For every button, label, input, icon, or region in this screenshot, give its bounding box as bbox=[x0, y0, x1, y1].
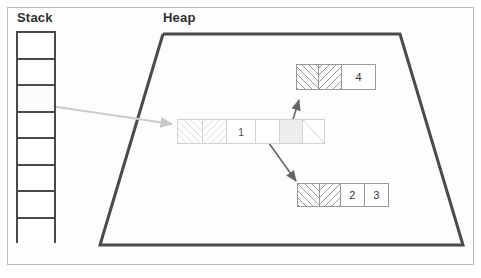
stack-cell-5[interactable] bbox=[18, 166, 54, 193]
stack-cell-1[interactable] bbox=[18, 60, 54, 87]
heap-cell-header-b bbox=[319, 65, 341, 89]
heap-cell-mid-header-b bbox=[203, 120, 228, 143]
heap-title: Heap bbox=[163, 10, 196, 25]
heap-block-node-1[interactable]: 1 bbox=[177, 119, 325, 144]
stack-cell-7[interactable] bbox=[18, 219, 54, 246]
heap-cell-mid-ptr-a bbox=[256, 120, 280, 143]
stack-cell-2[interactable] bbox=[18, 86, 54, 113]
heap-block-node-4[interactable]: 4 bbox=[296, 64, 376, 90]
stack-cell-4[interactable] bbox=[18, 139, 54, 166]
heap-block-node-2-3[interactable]: 2 3 bbox=[297, 183, 389, 207]
heap-cell-mid-ptr-b bbox=[280, 120, 304, 143]
heap-cell-bot-header-b bbox=[320, 184, 342, 206]
stack-cell-0[interactable] bbox=[18, 33, 54, 60]
stack-column[interactable] bbox=[16, 31, 56, 243]
heap-cell-mid-header-a bbox=[178, 120, 203, 143]
heap-cell-mid-null bbox=[303, 120, 324, 143]
stack-cell-3[interactable] bbox=[18, 113, 54, 140]
heap-cell-value-3: 3 bbox=[365, 184, 388, 206]
stack-cell-6[interactable] bbox=[18, 192, 54, 219]
heap-cell-header-a bbox=[297, 65, 319, 89]
diagram-canvas: Stack Heap 4 1 2 3 bbox=[0, 0, 481, 278]
stack-title: Stack bbox=[17, 10, 53, 25]
heap-cell-value-4: 4 bbox=[342, 65, 375, 89]
heap-cell-value-2: 2 bbox=[341, 184, 364, 206]
heap-cell-bot-header-a bbox=[298, 184, 320, 206]
heap-cell-value-1: 1 bbox=[227, 120, 256, 143]
